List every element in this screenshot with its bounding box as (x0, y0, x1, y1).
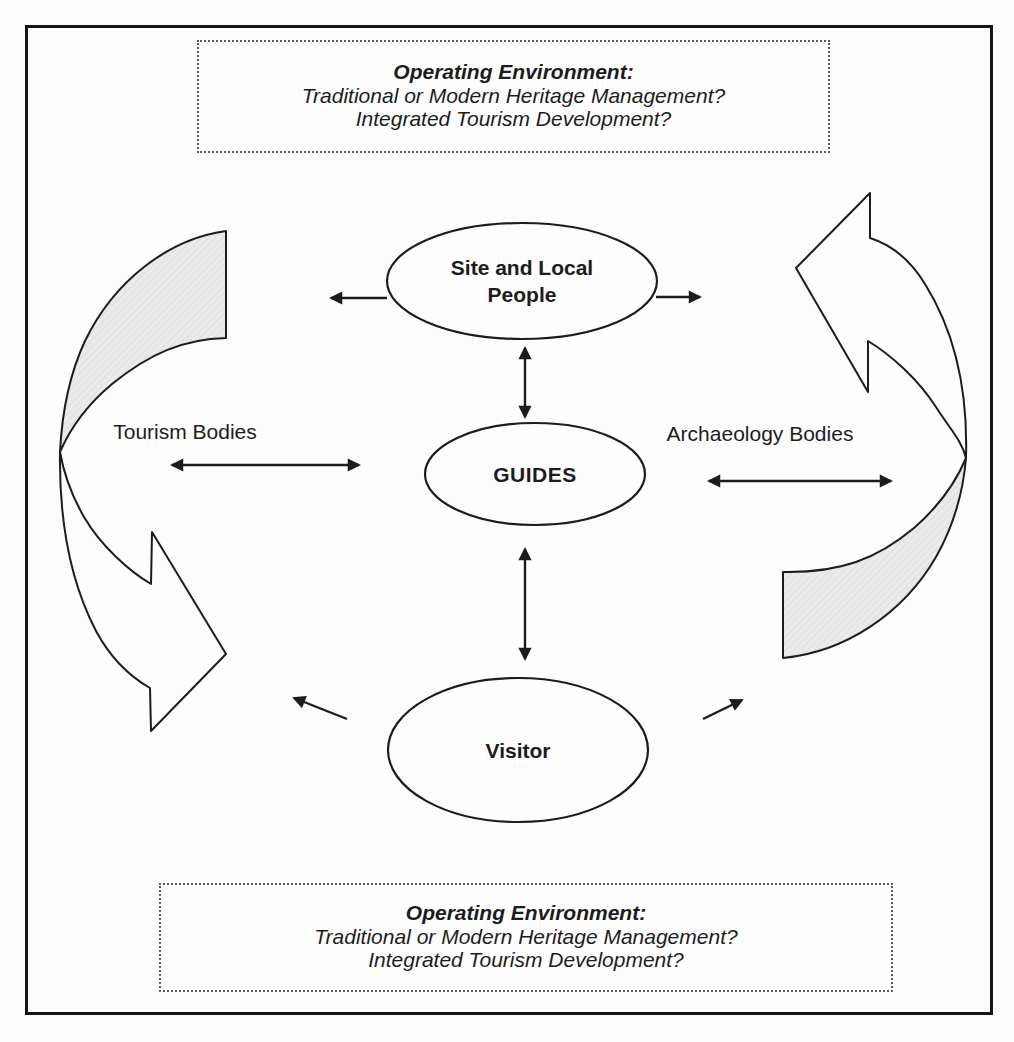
operating-environment-title: Operating Environment: (393, 60, 633, 84)
cycle-arrow-left (60, 231, 226, 731)
arrow-visitor-left (294, 698, 347, 719)
arrow-visitor-right (703, 700, 742, 719)
operating-environment-line2: Integrated Tourism Development? (368, 948, 684, 971)
label-tourism-bodies: Tourism Bodies (95, 420, 275, 444)
operating-environment-box-top: Operating Environment: Traditional or Mo… (197, 40, 830, 153)
cycle-arrow-right-arrowhead-segment (796, 193, 966, 458)
label-archaeology-bodies: Archaeology Bodies (664, 422, 856, 446)
operating-environment-line1: Traditional or Modern Heritage Managemen… (314, 925, 737, 948)
node-site-and-local-people-label: Site and Local People (432, 248, 612, 314)
node-guides-label: GUIDES (435, 458, 635, 490)
node-visitor-label: Visitor (418, 734, 618, 766)
operating-environment-box-bottom: Operating Environment: Traditional or Mo… (159, 883, 893, 992)
operating-environment-line2: Integrated Tourism Development? (356, 107, 672, 130)
cycle-arrow-left-arrowhead-segment (60, 452, 226, 731)
cycle-arrow-left-shaded-segment (60, 231, 226, 452)
operating-environment-line1: Traditional or Modern Heritage Managemen… (302, 84, 725, 107)
cycle-arrow-right-shaded-segment (783, 458, 966, 658)
diagram-page: Operating Environment: Traditional or Mo… (0, 0, 1014, 1042)
operating-environment-title: Operating Environment: (406, 901, 646, 925)
